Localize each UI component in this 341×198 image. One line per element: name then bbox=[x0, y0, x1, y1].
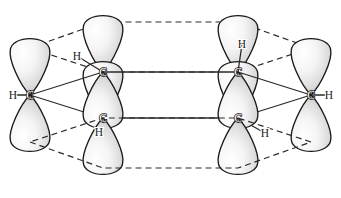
hydrogen-label: H bbox=[9, 89, 17, 101]
hydrogen-label: H bbox=[238, 38, 246, 50]
carbon-label: C bbox=[99, 66, 107, 78]
diagram-canvas: CCCCCCHHHHHH bbox=[0, 0, 341, 198]
hydrogen-label: H bbox=[261, 127, 269, 139]
carbon-label: C bbox=[99, 112, 107, 124]
hydrogen-label: H bbox=[325, 89, 333, 101]
hydrogen-label: H bbox=[95, 126, 103, 138]
benzene-orbital-diagram: CCCCCCHHHHHH bbox=[0, 0, 341, 198]
carbon-label: C bbox=[26, 89, 34, 101]
carbon-label: C bbox=[234, 66, 242, 78]
hydrogen-label: H bbox=[73, 50, 81, 62]
carbon-label: C bbox=[234, 112, 242, 124]
carbon-label: C bbox=[307, 89, 315, 101]
